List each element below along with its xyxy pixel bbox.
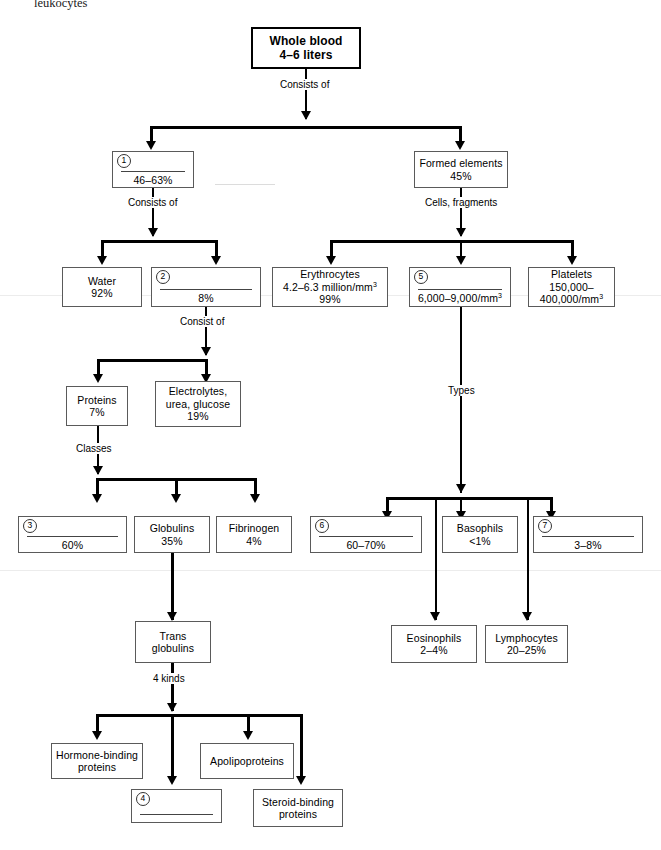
- arrowhead-to-solutes: [211, 256, 221, 265]
- node-leukocytes-blank[interactable]: 5 6,000–9,000/mm3: [409, 267, 511, 307]
- arrowhead-leukocytes-types: [456, 484, 466, 493]
- scan-artifact-smudge: [215, 184, 275, 185]
- flowchart-page: leukocytes Whole blood 4–6 liters Consis…: [0, 0, 661, 850]
- node-electrolytes-line1: Electrolytes,: [169, 385, 228, 398]
- node-eosinophils-line1: Eosinophils: [407, 632, 462, 645]
- answer-blank-rule-7: [542, 536, 634, 537]
- answer-number-4: 4: [136, 792, 150, 806]
- answer-blank-rule-3: [27, 536, 118, 537]
- arrowhead-to-proteins: [93, 374, 103, 383]
- node-platelets-line3: 400,000/mm3: [540, 293, 603, 306]
- node-platelets-line1: Platelets: [551, 268, 592, 281]
- page-header-fragment: leukocytes: [34, 0, 87, 11]
- node-fibrinogen-line2: 4%: [246, 535, 261, 548]
- node-erythrocytes-line2-text: 4.2–6.3 million/mm: [283, 281, 373, 293]
- node-lymphocytes-line1: Lymphocytes: [495, 632, 558, 645]
- answer-number-2: 2: [156, 270, 170, 284]
- connector-four-kinds-bar: [96, 714, 303, 717]
- node-eosinophils: Eosinophils 2–4%: [391, 625, 477, 663]
- node-steroid-binding-proteins: Steroid-binding proteins: [253, 789, 343, 827]
- connector-globulins-down: [171, 553, 174, 620]
- node-platelets-line2: 150,000–: [549, 281, 594, 294]
- answer-blank-rule-4: [140, 814, 213, 815]
- connector-plasma-split-bar: [101, 240, 218, 243]
- edge-label-consists-of-top: Consists of: [278, 79, 331, 90]
- node-trans-globulins-line1: Trans: [160, 630, 187, 643]
- node-water-line2: 92%: [91, 287, 112, 300]
- node-erythrocytes: Erythrocytes 4.2–6.3 million/mm3 99%: [272, 267, 388, 307]
- connector-solutes-split-bar: [97, 359, 208, 362]
- connector-to-metal-binding-drop: [171, 714, 174, 780]
- arrowhead-to-albumins: [92, 494, 102, 503]
- answer-blank-rule-2: [160, 289, 252, 290]
- node-proteins-line1: Proteins: [77, 394, 116, 407]
- node-erythrocytes-line3: 99%: [319, 293, 340, 306]
- arrowhead-globulins-down: [167, 612, 177, 621]
- arrowhead-to-lymphocytes: [522, 612, 532, 621]
- node-albumins-blank[interactable]: 3 60%: [18, 516, 127, 553]
- node-erythrocytes-line2-sup: 3: [373, 280, 377, 287]
- node-formed-elements-line2: 45%: [450, 170, 471, 183]
- node-leukocytes-value: 6,000–9,000/mm3: [410, 292, 510, 305]
- node-formed-elements-line1: Formed elements: [419, 157, 502, 170]
- edge-label-classes: Classes: [74, 443, 114, 454]
- answer-blank-rule-5: [418, 289, 502, 290]
- arrowhead-to-hormone-binding: [92, 731, 102, 740]
- node-trans-globulins: Trans globulins: [135, 621, 211, 663]
- arrowhead-trans-globulins-down: [167, 703, 177, 712]
- node-water: Water 92%: [62, 267, 142, 307]
- arrowhead-to-apolipoproteins: [243, 731, 253, 740]
- edge-label-consist-of-solutes: Consist of: [178, 316, 226, 327]
- node-monocytes-value: 3–8%: [534, 539, 642, 552]
- arrowhead-to-globulins: [171, 494, 181, 503]
- node-proteins: Proteins 7%: [66, 386, 128, 426]
- node-neutrophils-blank[interactable]: 6 60–70%: [310, 516, 422, 553]
- answer-number-6: 6: [315, 519, 329, 533]
- node-metal-binding-blank[interactable]: 4: [131, 789, 222, 823]
- connector-to-lymphocytes: [527, 497, 530, 620]
- node-globulins-line1: Globulins: [150, 522, 195, 535]
- connector-formed-split-bar: [330, 240, 574, 243]
- node-solutes-blank[interactable]: 2 8%: [151, 267, 261, 307]
- node-water-line1: Water: [88, 275, 116, 288]
- node-albumins-value: 60%: [19, 539, 126, 552]
- arrowhead-solutes-down: [201, 347, 211, 356]
- node-basophils-line1: Basophils: [457, 522, 503, 535]
- node-hormone-binding-line2: proteins: [78, 761, 116, 774]
- node-hormone-binding-proteins: Hormone-binding proteins: [51, 743, 143, 779]
- connector-level1-bar: [150, 126, 461, 129]
- connector-to-steroid-binding-drop: [300, 714, 303, 780]
- node-electrolytes-line3: 19%: [187, 410, 208, 423]
- node-fibrinogen-line1: Fibrinogen: [229, 522, 280, 535]
- arrowhead-to-platelets: [567, 256, 577, 265]
- arrowhead-to-leukocytes: [456, 256, 466, 265]
- connector-to-eosinophils: [435, 497, 438, 620]
- node-erythrocytes-line1: Erythrocytes: [300, 268, 360, 281]
- scan-artifact-line: [0, 570, 661, 571]
- arrowhead-to-erythrocytes: [326, 256, 336, 265]
- node-solutes-value: 8%: [152, 292, 260, 305]
- edge-label-consists-of-plasma: Consists of: [126, 197, 179, 208]
- edge-label-types: Types: [446, 385, 477, 396]
- node-proteins-line2: 7%: [89, 406, 104, 419]
- node-basophils: Basophils <1%: [442, 516, 518, 553]
- node-apolipoproteins-line1: Apolipoproteins: [210, 755, 284, 768]
- answer-number-1: 1: [117, 154, 131, 168]
- node-formed-elements: Formed elements 45%: [414, 151, 508, 188]
- node-globulins: Globulins 35%: [134, 516, 210, 553]
- answer-number-5: 5: [414, 270, 428, 284]
- node-fibrinogen: Fibrinogen 4%: [216, 516, 292, 553]
- node-neutrophils-value: 60–70%: [311, 539, 421, 552]
- edge-label-four-kinds: 4 kinds: [151, 673, 187, 684]
- arrowhead-to-plasma: [146, 141, 156, 150]
- node-monocytes-blank[interactable]: 7 3–8%: [533, 516, 643, 553]
- node-steroid-binding-line1: Steroid-binding: [262, 796, 334, 809]
- node-erythrocytes-line2: 4.2–6.3 million/mm3: [283, 281, 377, 294]
- node-platelets: Platelets 150,000– 400,000/mm3: [528, 267, 615, 307]
- answer-blank-rule-6: [319, 536, 413, 537]
- arrowhead-to-water: [97, 256, 107, 265]
- node-basophils-line2: <1%: [469, 535, 491, 548]
- arrowhead-proteins-down: [93, 466, 103, 475]
- node-plasma-blank[interactable]: 1 46–63%: [112, 151, 194, 188]
- node-globulins-line2: 35%: [161, 535, 182, 548]
